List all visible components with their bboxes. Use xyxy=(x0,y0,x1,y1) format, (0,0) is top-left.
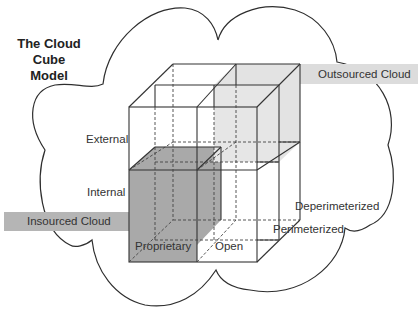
axis-label-perimeterized: Perimeterized xyxy=(273,223,344,235)
title-line-1: The Cloud Cube xyxy=(0,36,98,68)
axis-label-open: Open xyxy=(215,240,243,252)
axis-label-deperimeterized: Deperimeterized xyxy=(295,200,379,212)
outsourced-cloud-label: Outsourced Cloud xyxy=(318,68,411,80)
axis-label-proprietary: Proprietary xyxy=(135,240,191,252)
axis-label-internal: Internal xyxy=(87,186,125,198)
axis-label-external: External xyxy=(86,133,128,145)
insourced-cloud-label: Insourced Cloud xyxy=(27,215,111,227)
diagram-title: The Cloud Cube Model xyxy=(0,36,98,84)
title-line-2: Model xyxy=(0,68,98,84)
